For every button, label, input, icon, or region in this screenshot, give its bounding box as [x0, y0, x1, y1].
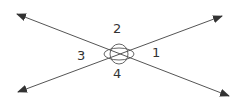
line-a — [17, 14, 229, 96]
angle-label-3: 3 — [77, 48, 85, 63]
diagram-svg: 1 2 3 4 — [0, 0, 238, 102]
angle-label-1: 1 — [152, 45, 160, 60]
angle-diagram: 1 2 3 4 — [0, 0, 238, 102]
angle-label-4: 4 — [113, 66, 121, 81]
angle-label-2: 2 — [113, 21, 121, 36]
